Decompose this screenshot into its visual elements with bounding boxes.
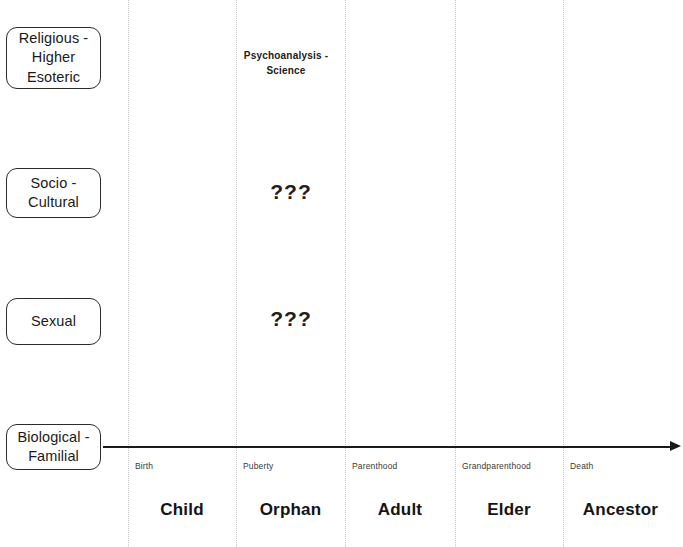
event-label-birth: Birth <box>135 461 153 471</box>
annotation-unknown-socio-text: ??? <box>270 180 311 203</box>
annotation-unknown-sexual: ??? <box>231 307 351 331</box>
event-label-parenthood: Parenthood <box>352 461 397 471</box>
annotation-psychoanalysis-text: Psychoanalysis -Science <box>244 50 328 76</box>
annotation-unknown-sexual-text: ??? <box>270 307 311 330</box>
stage-label-child: Child <box>128 500 236 520</box>
event-label-grandparenthood: Grandparenthood <box>462 461 531 471</box>
event-label-death: Death <box>570 461 593 471</box>
column-divider-grandparenthood <box>455 0 456 547</box>
stage-label-elder: Elder <box>455 500 563 520</box>
level-box-biological-label: Biological -Familial <box>17 428 89 466</box>
stage-label-adult: Adult <box>345 500 455 520</box>
level-box-socio-cultural-label: Socio -Cultural <box>28 174 79 212</box>
stage-label-ancestor: Ancestor <box>563 500 678 520</box>
column-divider-birth <box>128 0 129 547</box>
level-box-religious-label: Religious -HigherEsoteric <box>19 29 89 86</box>
stage-label-orphan: Orphan <box>236 500 345 520</box>
annotation-psychoanalysis: Psychoanalysis -Science <box>226 49 346 78</box>
event-label-puberty: Puberty <box>243 461 273 471</box>
level-box-sexual: Sexual <box>6 298 101 345</box>
timeline-axis-line <box>103 446 673 448</box>
column-divider-puberty <box>236 0 237 547</box>
level-box-biological: Biological -Familial <box>6 424 101 470</box>
level-box-socio-cultural: Socio -Cultural <box>6 168 101 218</box>
timeline-arrow-head <box>670 441 681 451</box>
diagram-canvas: Religious -HigherEsoteric Socio -Cultura… <box>0 0 683 547</box>
annotation-unknown-socio: ??? <box>231 180 351 204</box>
column-divider-death <box>563 0 564 547</box>
column-divider-parenthood <box>345 0 346 547</box>
level-box-sexual-label: Sexual <box>31 312 76 331</box>
level-box-religious: Religious -HigherEsoteric <box>6 27 101 89</box>
